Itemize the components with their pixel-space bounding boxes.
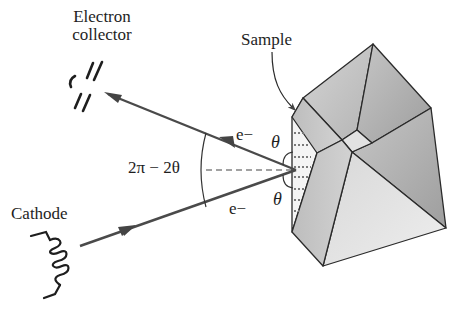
scattered-arrow-mid xyxy=(219,136,235,148)
electron-collector-label-line1: Electron xyxy=(62,8,142,26)
sample-pointer-arrow xyxy=(272,52,293,108)
theta-top-label: θ xyxy=(271,133,280,151)
electron-beams xyxy=(80,94,296,246)
electron-collector-label: Electron collector xyxy=(62,8,142,44)
cathode-filament-icon xyxy=(31,232,69,298)
sample-crystal xyxy=(292,44,446,266)
scattered-arrow-end xyxy=(104,92,122,103)
diffraction-diagram xyxy=(0,0,455,309)
electron-out-label: e− xyxy=(236,126,253,144)
electron-collector-icon xyxy=(70,62,102,111)
cathode-label: Cathode xyxy=(11,205,68,223)
theta-bottom-label: θ xyxy=(273,190,282,208)
sample-label: Sample xyxy=(241,31,292,49)
incident-beam xyxy=(80,170,296,246)
angle-label: 2π − 2θ xyxy=(128,159,180,177)
angle-arc-large xyxy=(201,133,206,207)
electron-collector-label-line2: collector xyxy=(62,26,142,44)
electron-in-label: e− xyxy=(229,200,246,218)
incident-arrow xyxy=(118,225,136,236)
